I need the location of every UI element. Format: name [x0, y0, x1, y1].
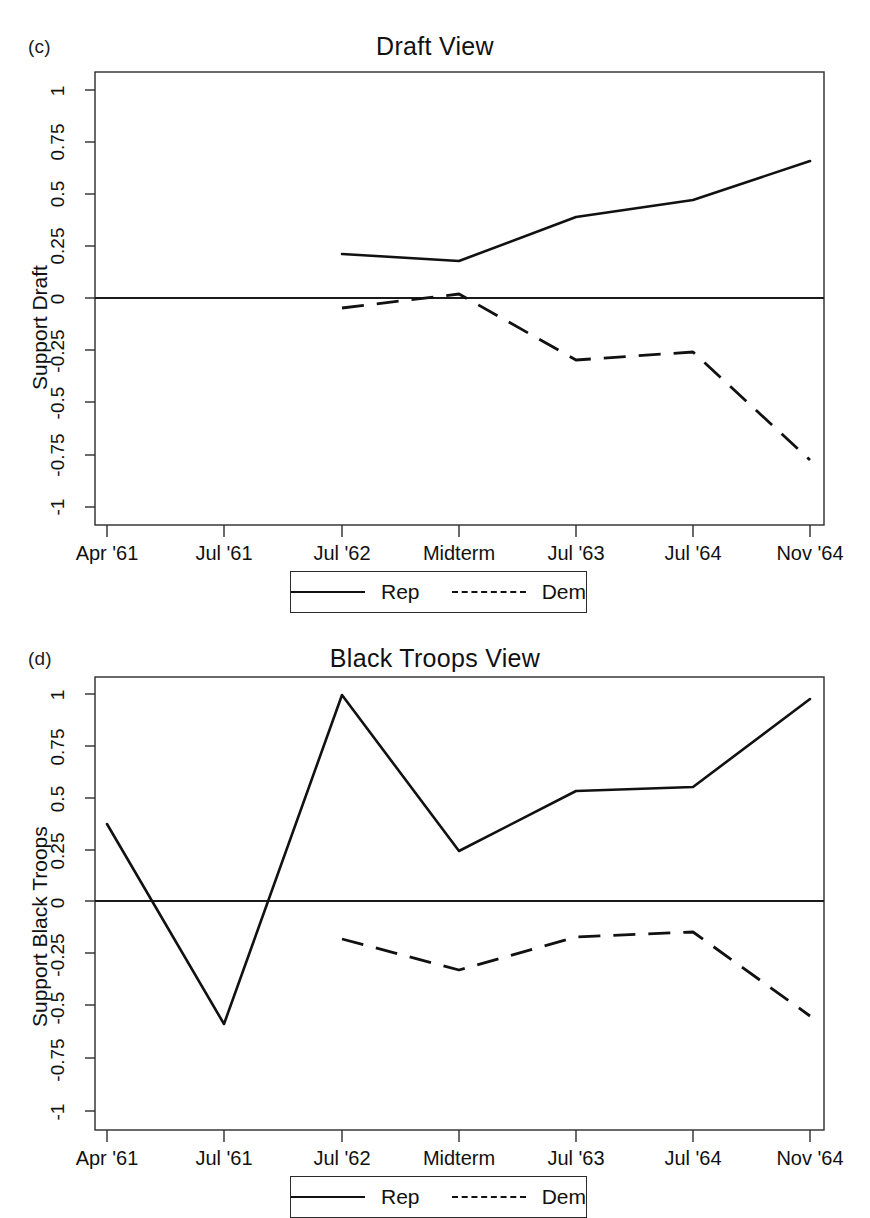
- legend-black-troops: Rep Dem: [290, 1176, 587, 1218]
- legend-entry-rep: Rep: [291, 1185, 420, 1209]
- series-line-dem: [342, 932, 810, 1016]
- y-tick-marks: [85, 90, 95, 507]
- legend-label-dem: Dem: [542, 1185, 586, 1209]
- plot-area-draft: [0, 0, 870, 560]
- x-tick-label: Midterm: [423, 542, 495, 565]
- legend-draft: Rep Dem: [290, 571, 587, 613]
- x-tick-marks: [107, 1130, 810, 1142]
- y-tick-marks: [85, 694, 95, 1111]
- legend-entry-rep: Rep: [291, 580, 420, 604]
- x-tick-label: Nov '64: [776, 1147, 843, 1170]
- x-tick-label: Jul '63: [547, 1147, 604, 1170]
- legend-swatch-dem-line: [452, 1196, 526, 1198]
- legend-swatch-rep-line: [291, 591, 365, 593]
- x-tick-label: Jul '63: [547, 542, 604, 565]
- x-tick-label: Jul '62: [313, 1147, 370, 1170]
- x-tick-label: Apr '61: [76, 542, 139, 565]
- x-tick-label: Jul '61: [195, 542, 252, 565]
- legend-entry-dem: Dem: [452, 1185, 586, 1209]
- series-line-rep: [342, 161, 810, 261]
- chart-panel-black-troops-view: (d) Black Troops View Support Black Troo…: [0, 612, 870, 1210]
- x-tick-label: Jul '64: [664, 542, 721, 565]
- x-tick-label: Jul '61: [195, 1147, 252, 1170]
- legend-label-rep: Rep: [381, 580, 420, 604]
- plot-area-black-troops: [0, 612, 870, 1157]
- plot-frame: [95, 677, 824, 1130]
- series-line-dem: [342, 294, 810, 460]
- legend-label-rep: Rep: [381, 1185, 420, 1209]
- x-tick-label: Nov '64: [776, 542, 843, 565]
- legend-entry-dem: Dem: [452, 580, 586, 604]
- x-tick-label: Apr '61: [76, 1147, 139, 1170]
- legend-swatch-dem-line: [452, 591, 526, 593]
- chart-panel-draft-view: (c) Draft View Support Draft 1 0.75 0.5 …: [0, 0, 870, 615]
- x-tick-label: Jul '62: [313, 542, 370, 565]
- x-tick-label: Midterm: [423, 1147, 495, 1170]
- x-tick-marks: [107, 525, 810, 537]
- series-line-rep: [107, 695, 810, 1024]
- legend-label-dem: Dem: [542, 580, 586, 604]
- x-tick-label: Jul '64: [664, 1147, 721, 1170]
- legend-swatch-rep-line: [291, 1196, 365, 1198]
